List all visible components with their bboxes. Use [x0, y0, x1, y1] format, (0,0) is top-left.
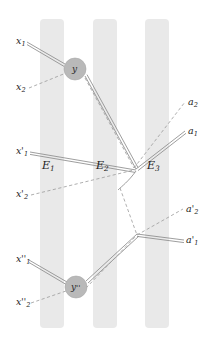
output-label-a1: a1	[188, 126, 198, 136]
input-label-x2-prime: x'2	[16, 189, 28, 199]
input-label-x2-doubleprime: x''2	[16, 297, 30, 307]
diagram-canvas: y y'' x1 x2 x'1 x'2 x''1 x''2 a2 a1 a'2 …	[0, 0, 212, 344]
band-label-e1: E1	[42, 160, 55, 171]
band-label-e3: E3	[147, 160, 160, 171]
band-group	[40, 19, 169, 328]
node-label-y: y	[72, 65, 77, 74]
edge-junction1-down-branch	[118, 171, 136, 190]
band-label-e2: E2	[96, 160, 109, 171]
input-label-x1-prime: x'1	[16, 146, 28, 156]
output-label-a2-prime: a'2	[186, 204, 198, 214]
node-label-y-doubleprime: y''	[71, 283, 81, 292]
input-label-x1-doubleprime: x''1	[16, 254, 30, 264]
input-label-x2: x2	[16, 82, 26, 92]
band-e1	[40, 19, 64, 328]
band-e3	[145, 19, 169, 328]
input-label-x1: x1	[16, 36, 26, 46]
output-label-a1-prime: a'1	[186, 235, 198, 245]
output-label-a2: a2	[188, 97, 198, 107]
edge-junction1-to-junction2	[120, 188, 137, 235]
band-e2	[93, 19, 117, 328]
